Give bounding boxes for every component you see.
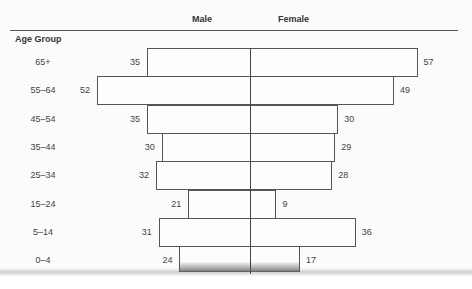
male-bar <box>156 161 251 190</box>
series-label-female: Female <box>278 14 309 24</box>
male-bar <box>162 133 251 162</box>
category-label: 25–34 <box>3 170 83 180</box>
category-label: 5–14 <box>3 227 83 237</box>
female-bar <box>250 48 418 77</box>
male-bar <box>97 76 251 105</box>
male-value-label: 30 <box>145 142 155 152</box>
male-bar <box>147 48 251 77</box>
female-value-label: 36 <box>362 227 372 237</box>
female-value-label: 49 <box>400 85 410 95</box>
category-label: 55–64 <box>3 85 83 95</box>
category-label: 65+ <box>3 57 83 67</box>
female-bar <box>250 218 356 247</box>
category-label: 45–54 <box>3 114 83 124</box>
female-bar <box>250 190 276 219</box>
female-bar <box>250 105 338 134</box>
male-bar <box>159 218 251 247</box>
female-value-label: 57 <box>424 57 434 67</box>
center-axis-line <box>250 48 251 274</box>
series-label-male: Male <box>192 14 212 24</box>
female-bar <box>250 133 335 162</box>
male-bar <box>188 190 251 219</box>
female-value-label: 9 <box>282 199 287 209</box>
male-value-label: 24 <box>162 255 172 265</box>
female-value-label: 17 <box>306 255 316 265</box>
female-value-label: 29 <box>341 142 351 152</box>
female-bar <box>250 161 332 190</box>
male-value-label: 52 <box>80 85 90 95</box>
category-label: 0–4 <box>3 255 83 265</box>
male-value-label: 21 <box>171 199 181 209</box>
male-bar <box>147 105 251 134</box>
female-bar <box>250 76 394 105</box>
male-value-label: 35 <box>130 57 140 67</box>
male-value-label: 32 <box>139 170 149 180</box>
female-value-label: 28 <box>338 170 348 180</box>
category-label: 35–44 <box>3 142 83 152</box>
axis-title: Age Group <box>15 34 62 44</box>
female-value-label: 30 <box>344 114 354 124</box>
page-fold-shadow <box>0 268 472 276</box>
male-value-label: 35 <box>130 114 140 124</box>
category-label: 15–24 <box>3 199 83 209</box>
bottom-margin <box>0 276 472 289</box>
header-rule <box>10 30 458 31</box>
male-value-label: 31 <box>142 227 152 237</box>
